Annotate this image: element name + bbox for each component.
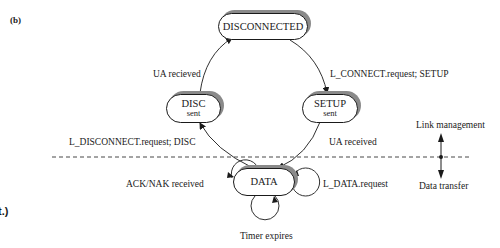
legend-arrow-up [438,133,444,142]
arrow-setup-to-data [278,122,320,168]
label-l-connect-request: L_CONNECT.request; SETUP [330,70,449,80]
state-data-label: DATA [250,176,277,187]
state-disc-sent-sublabel: sent [187,109,201,118]
state-setup-sent: SETUP sent [302,94,358,123]
legend-link-management: Link management [416,121,485,131]
panel-label: (b) [10,15,21,25]
label-ua-received: UA received [329,138,377,148]
arrow-data-to-disc [200,123,253,168]
label-l-disconnect-request: L_DISCONNECT.request; DISC [69,138,195,148]
legend-data-transfer: Data transfer [419,182,468,192]
state-setup-sent-sublabel: sent [323,109,337,118]
continuation-fragment: t.) [0,205,8,217]
label-l-data-request: L_DATA.request [323,180,388,190]
arrow-disc-to-disconnected [200,38,232,93]
state-data: DATA [233,168,295,196]
legend-boundary-dot [439,155,443,159]
label-timer-expires: Timer expires [240,232,293,242]
self-loop-right-head [293,170,299,176]
legend-arrow-down [438,170,444,179]
label-ack-nak-received: ACK/NAK received [126,180,204,190]
state-disc-sent: DISC sent [166,94,221,123]
label-ua-recieved: UA recieved [153,70,201,80]
arrow-disconnected-to-setup [290,40,327,93]
state-disconnected: DISCONNECTED [218,13,308,40]
state-disconnected-label: DISCONNECTED [223,21,304,32]
